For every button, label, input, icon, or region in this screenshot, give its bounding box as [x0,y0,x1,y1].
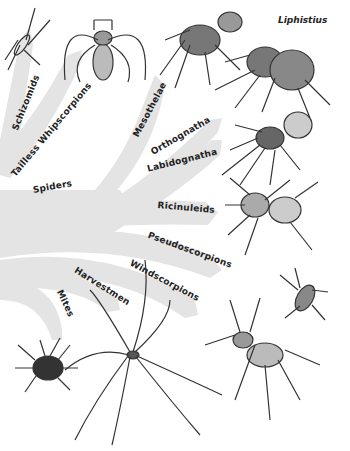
arachnid-diagram: Liphistius Schizomids Tailless Whipscorp… [0,0,350,451]
liphistius-illustration [215,47,330,118]
pseudoscorpion-illustration [280,268,328,320]
windscorpion-illustration [205,298,320,420]
liphistius-label: Liphistius [278,15,327,25]
mesothelae-spider-illustration [160,12,242,88]
tailless-whipscorpion-illustration [64,20,145,82]
orthognath-spider-illustration [222,112,312,185]
branch-arrows [0,0,350,451]
mite-illustration [15,338,78,392]
labidognath-spider-illustration [225,178,318,255]
